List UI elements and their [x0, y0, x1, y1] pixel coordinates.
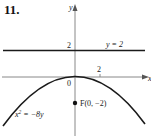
focus-label: F(0, −2)	[80, 99, 107, 108]
y-axis-arrow-icon	[73, 4, 78, 11]
y-tick-label: 2	[67, 41, 71, 50]
parabola-label: x2 = −8y	[14, 109, 44, 119]
x-tick-label: 2	[97, 65, 101, 74]
problem-number: 11.	[4, 2, 20, 17]
focus-point	[73, 101, 77, 105]
x-axis-label: x	[147, 74, 151, 83]
y-axis-label: y	[68, 3, 73, 12]
parabola-diagram: 11. y x 2 2 0 y = 2 x2 = −8y F(0, −2)	[0, 0, 151, 136]
directrix-label: y = 2	[105, 40, 123, 49]
origin-label: 0	[67, 79, 71, 88]
